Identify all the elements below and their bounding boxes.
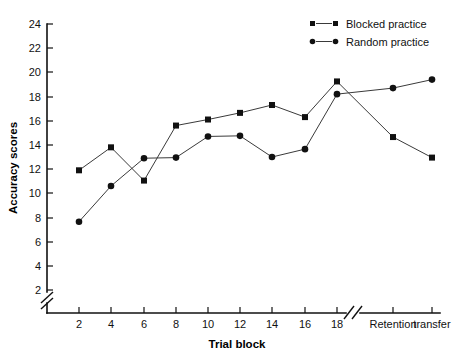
x-tick-label: 4 [108, 318, 114, 330]
data-point-marker [76, 218, 83, 225]
y-tick-label: 6 [35, 236, 41, 248]
accuracy-scores-line-chart: 24 22 20 18 16 14 12 10 8 6 4 2 [0, 0, 456, 360]
y-tick-label: 20 [29, 66, 41, 78]
y-tick-label: 14 [29, 139, 41, 151]
data-point-marker [429, 155, 435, 161]
data-point-marker [429, 76, 436, 83]
series-markers-random-practice [76, 76, 436, 225]
data-point-marker [173, 154, 180, 161]
y-axis-tick-labels: 24 22 20 18 16 14 12 10 8 6 4 2 [29, 18, 41, 296]
data-point-marker [108, 183, 115, 190]
legend-marker-square-left [310, 21, 315, 26]
y-tick-label: 18 [29, 91, 41, 103]
x-tick-label: 12 [234, 318, 246, 330]
x-tick-label: 18 [331, 318, 343, 330]
x-tick-label: 14 [266, 318, 278, 330]
y-tick-label: 4 [35, 260, 41, 272]
data-point-marker [205, 133, 212, 140]
data-point-marker [76, 167, 82, 173]
x-category-label-transfer: transfer [413, 318, 451, 330]
data-point-marker [269, 154, 276, 161]
y-axis-ticks [47, 24, 53, 290]
data-point-marker [334, 91, 341, 98]
data-point-marker [302, 146, 309, 153]
series-markers-blocked-practice [76, 78, 435, 183]
x-tick-label: 6 [141, 318, 147, 330]
chart-legend: Blocked practice Random practice [310, 18, 429, 48]
x-tick-label: 16 [299, 318, 311, 330]
x-axis-title: Trial block [209, 338, 266, 350]
y-axis-title: Accuracy scores [7, 122, 19, 214]
legend-label-random-practice: Random practice [346, 36, 429, 48]
legend-marker-circle-right [333, 39, 339, 45]
legend-label-blocked-practice: Blocked practice [346, 18, 427, 30]
chart-canvas: 24 22 20 18 16 14 12 10 8 6 4 2 [0, 0, 456, 360]
y-tick-label: 2 [35, 284, 41, 296]
y-tick-label: 10 [29, 187, 41, 199]
data-point-marker [390, 134, 396, 140]
x-tick-label: 8 [173, 318, 179, 330]
data-point-marker [390, 85, 397, 92]
x-category-label-retention: Retention [369, 318, 416, 330]
y-tick-label: 16 [29, 115, 41, 127]
data-point-marker [108, 144, 114, 150]
y-axis-break-slash-1 [41, 292, 53, 303]
y-tick-label: 24 [29, 18, 41, 30]
y-tick-label: 12 [29, 163, 41, 175]
data-point-marker [269, 102, 275, 108]
data-point-marker [205, 117, 211, 123]
data-point-marker [141, 178, 147, 184]
legend-marker-circle-left [310, 39, 316, 45]
data-point-marker [334, 78, 340, 84]
legend-marker-square-right [333, 21, 338, 26]
data-point-marker [302, 114, 308, 120]
y-tick-label: 8 [35, 212, 41, 224]
series-line-blocked-practice [79, 81, 432, 180]
x-axis-ticks [79, 307, 432, 313]
data-point-marker [237, 110, 243, 116]
data-point-marker [237, 133, 244, 140]
x-tick-label: 10 [202, 318, 214, 330]
y-tick-label: 22 [29, 42, 41, 54]
data-point-marker [173, 123, 179, 129]
x-axis-tick-labels: 2 4 6 8 10 12 14 16 18 Retention transfe… [76, 318, 451, 330]
series-line-random-practice [79, 80, 432, 222]
data-point-marker [141, 155, 148, 162]
x-tick-label: 2 [76, 318, 82, 330]
